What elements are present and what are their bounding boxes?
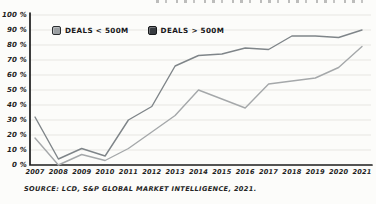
y-tick-label: 40 % <box>0 101 27 110</box>
series-line-deals-under-500m <box>35 47 362 166</box>
legend-swatch-deals-over-500m-icon <box>148 26 157 35</box>
x-tick-label: 2011 <box>115 168 141 176</box>
y-tick-label: 50 % <box>0 86 27 95</box>
legend-label-deals-over-500m: DEALS > 500M <box>161 26 225 35</box>
y-tick-label: 100 % <box>0 11 27 20</box>
y-tick-label: 30 % <box>0 116 27 125</box>
series-line-deals-over-500m <box>35 30 362 159</box>
x-tick-label: 2010 <box>92 168 118 176</box>
x-tick-label: 2021 <box>349 168 375 176</box>
x-tick-label: 2015 <box>209 168 235 176</box>
y-tick-label: 60 % <box>0 71 27 80</box>
x-tick-label: 2019 <box>302 168 328 176</box>
legend-label-deals-under-500m: DEALS < 500M <box>65 26 129 35</box>
x-tick-label: 2009 <box>69 168 95 176</box>
x-tick-label: 2016 <box>232 168 258 176</box>
y-tick-label: 90 % <box>0 26 27 35</box>
legend: DEALS < 500M DEALS > 500M <box>52 26 224 35</box>
legend-item-deals-under-500m: DEALS < 500M <box>52 26 129 35</box>
y-tick-label: 20 % <box>0 131 27 140</box>
x-tick-label: 2007 <box>22 168 48 176</box>
x-tick-label: 2017 <box>256 168 282 176</box>
x-tick-label: 2012 <box>139 168 165 176</box>
y-tick-label: 70 % <box>0 56 27 65</box>
source-note: SOURCE: LCD, S&P GLOBAL MARKET INTELLIGE… <box>24 185 257 193</box>
y-tick-label: 80 % <box>0 41 27 50</box>
x-tick-label: 2018 <box>279 168 305 176</box>
x-tick-label: 2014 <box>186 168 212 176</box>
x-tick-label: 2020 <box>326 168 352 176</box>
legend-item-deals-over-500m: DEALS > 500M <box>148 26 225 35</box>
y-tick-label: 10 % <box>0 146 27 155</box>
cov-lite-share-line-chart: 0 %10 %20 %30 %40 %50 %60 %70 %80 %90 %1… <box>0 0 376 204</box>
x-tick-label: 2013 <box>162 168 188 176</box>
x-tick-label: 2008 <box>45 168 71 176</box>
legend-swatch-deals-under-500m-icon <box>52 26 61 35</box>
